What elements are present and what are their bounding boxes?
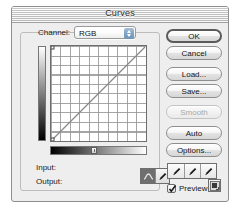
curve-line[interactable] [51, 46, 146, 141]
input-label: Input: [36, 163, 56, 172]
ok-button[interactable]: OK [166, 29, 222, 43]
save-button[interactable]: Save... [166, 84, 222, 98]
channel-selected-value: RGB [79, 29, 96, 38]
curve-graph[interactable] [50, 45, 147, 142]
input-gradient-ramp[interactable] [50, 146, 147, 155]
readout-block: Input: Output: [36, 161, 62, 189]
load-button[interactable]: Load... [166, 67, 222, 81]
curves-dialog: Curves Channel: RGB Input: [11, 6, 229, 202]
options-button[interactable]: Options... [166, 143, 222, 157]
curve-display-toggle-icon[interactable] [208, 179, 221, 192]
up-down-arrows-icon[interactable] [124, 28, 134, 39]
channel-row: Channel: RGB [38, 26, 136, 39]
channel-label: Channel: [38, 28, 70, 37]
eyedropper-group [167, 163, 217, 179]
cancel-button[interactable]: Cancel [166, 46, 222, 60]
channel-select[interactable]: RGB [74, 26, 136, 39]
preview-checkbox[interactable] [167, 184, 176, 193]
set-black-point-eyedropper[interactable] [168, 164, 184, 178]
gradient-midpoint-marker[interactable] [91, 147, 97, 154]
preview-label: Preview [179, 184, 207, 193]
auto-button[interactable]: Auto [166, 126, 222, 140]
output-readout: Output: [36, 175, 62, 189]
output-label: Output: [36, 177, 62, 186]
set-white-point-eyedropper[interactable] [200, 164, 216, 178]
preview-row[interactable]: Preview [167, 184, 207, 193]
dialog-title: Curves [12, 8, 228, 18]
curve-tool-icon[interactable] [141, 169, 155, 183]
set-gray-point-eyedropper[interactable] [184, 164, 200, 178]
dialog-titlebar[interactable]: Curves [12, 7, 228, 23]
curve-tool-group [140, 168, 170, 184]
smooth-button: Smooth [166, 105, 222, 119]
output-gradient-ramp [38, 46, 46, 141]
dialog-button-column: OK Cancel Load... Save... Smooth Auto Op… [166, 29, 222, 160]
input-readout: Input: [36, 161, 62, 175]
